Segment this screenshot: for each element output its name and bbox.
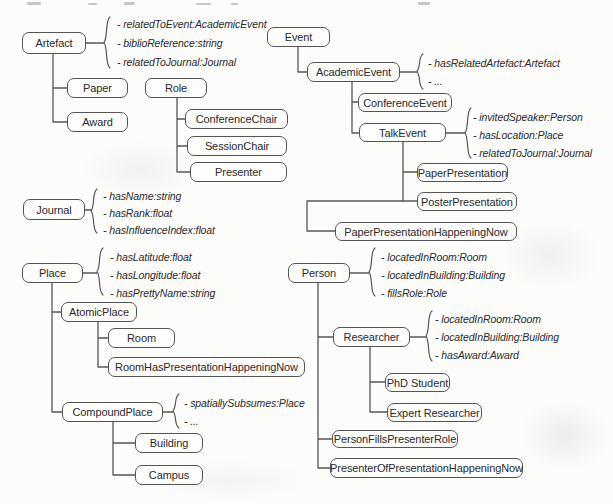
attr-line: - spatiallySubsumes:Place [184, 394, 305, 412]
attr-line: - hasLongitude:float [110, 266, 215, 284]
class-box-conference-chair: ConferenceChair [185, 109, 288, 129]
connector-event-children [298, 47, 307, 72]
attr-line: - relatedToJournal:Journal [473, 144, 592, 162]
attr-line: - locatedInBuilding:Building [381, 266, 505, 284]
attribute-brace-academicevent [417, 54, 423, 89]
connector-place-children [52, 283, 62, 412]
class-box-role: Role [145, 78, 207, 98]
attribute-brace-researcher [426, 311, 432, 361]
class-box-presenter-of-presentation-happening-now: PresenterOfPresentationHappeningNow [330, 458, 523, 478]
attr-line: - hasRank:float [103, 205, 215, 222]
class-box-phd-student: PhD Student [385, 373, 450, 392]
attr-line: - hasPrettyName:string [110, 284, 215, 302]
class-box-person: Person [288, 263, 350, 283]
class-box-poster-presentation: PosterPresentation [417, 192, 517, 211]
attr-line: - relatedToJournal:Journal [117, 53, 267, 72]
diagram-canvas: Artefact Paper Award Role ConferenceChai… [0, 0, 613, 504]
class-box-journal: Journal [23, 199, 85, 220]
scan-artifact [27, 2, 41, 5]
attr-line: - biblioReference:string [117, 34, 267, 53]
class-box-place: Place [22, 263, 83, 283]
attrs-talk-event: - invitedSpeaker:Person - hasLocation:Pl… [473, 108, 592, 162]
class-box-paper-presentation: PaperPresentation [417, 163, 508, 182]
attr-line: - hasLatitude:float [110, 248, 215, 266]
attr-line: - locatedInRoom:Room [381, 248, 505, 266]
class-box-conference-event: ConferenceEvent [358, 93, 452, 112]
attr-line: - hasInfluenceIndex:float [103, 222, 215, 239]
attrs-artefact: - relatedToEvent:AcademicEvent - biblioR… [117, 15, 267, 72]
attrs-place: - hasLatitude:float - hasLongitude:float… [110, 248, 215, 302]
attr-line: - invitedSpeaker:Person [473, 108, 592, 126]
attrs-journal: - hasName:string - hasRank:float - hasIn… [103, 188, 215, 239]
attribute-brace-journal [91, 189, 97, 233]
class-box-academic-event: AcademicEvent [307, 62, 400, 82]
scan-artifact [88, 3, 97, 5]
class-box-room-has-presentation-happening-now: RoomHasPresentationHappeningNow [108, 357, 305, 377]
class-box-award: Award [67, 112, 128, 132]
attribute-brace-talkevent [465, 108, 471, 158]
attribute-brace-artefact [104, 17, 110, 68]
connector-talkevent-children [307, 142, 417, 231]
attr-line: - hasName:string [103, 188, 215, 205]
attrs-researcher: - locatedInRoom:Room - locatedInBuilding… [435, 310, 559, 364]
attrs-compound-place: - spatiallySubsumes:Place - ... [184, 394, 305, 430]
class-box-artefact: Artefact [22, 32, 86, 54]
attrs-academic-event: - hasRelatedArtefact:Artefact - ... [428, 54, 560, 90]
attr-line: - relatedToEvent:AcademicEvent [117, 15, 267, 34]
class-box-expert-researcher: Expert Researcher [387, 403, 482, 422]
attribute-brace-place [97, 248, 103, 295]
scan-artifact [196, 3, 211, 5]
attr-line: - ... [184, 412, 305, 430]
class-box-compound-place: CompoundPlace [62, 402, 163, 422]
class-box-event: Event [267, 27, 330, 47]
attr-line: - hasAward:Award [435, 346, 559, 364]
class-box-talk-event: TalkEvent [359, 123, 446, 142]
class-box-atomic-place: AtomicPlace [61, 302, 137, 322]
connector-person-children [318, 283, 333, 468]
scan-artifact [124, 2, 135, 5]
class-box-person-fills-presenter-role: PersonFillsPresenterRole [332, 430, 458, 448]
attr-line: - fillsRole:Role [381, 284, 505, 302]
class-box-building: Building [135, 433, 203, 453]
class-box-paper: Paper [67, 78, 128, 98]
class-box-paper-presentation-happening-now: PaperPresentationHappeningNow [335, 222, 517, 241]
attr-line: - locatedInRoom:Room [435, 310, 559, 328]
connector-compoundplace-children [113, 422, 135, 475]
connector-artefact-children [53, 54, 67, 122]
class-box-researcher: Researcher [333, 327, 410, 347]
attr-line: - hasRelatedArtefact:Artefact [428, 54, 560, 72]
scan-artifact [418, 2, 430, 5]
attrs-person: - locatedInRoom:Room - locatedInBuilding… [381, 248, 505, 302]
attribute-brace-compoundplace [173, 394, 179, 428]
attr-line: - ... [428, 72, 560, 90]
class-box-presenter: Presenter [190, 162, 287, 182]
class-box-room: Room [108, 328, 175, 348]
class-box-campus: Campus [135, 465, 203, 485]
class-box-session-chair: SessionChair [187, 136, 287, 156]
scan-artifact [231, 3, 238, 5]
connector-atomicplace-children [98, 322, 108, 367]
attr-line: - locatedInBuilding:Building [435, 328, 559, 346]
attr-line: - hasLocation:Place [473, 126, 592, 144]
attribute-brace-person [369, 248, 375, 296]
